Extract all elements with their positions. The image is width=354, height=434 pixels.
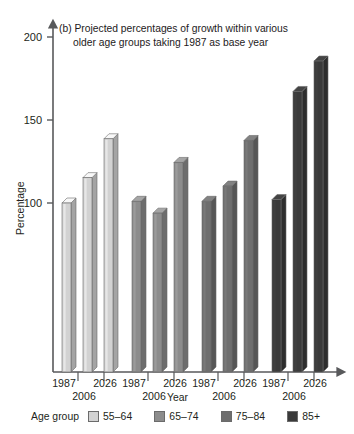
x-label-g2-1987: 1987 [183, 377, 225, 389]
bar-highlight [154, 214, 156, 371]
bar-side-face [162, 208, 167, 372]
bar-highlight [203, 202, 205, 371]
legend-item-75-84[interactable]: 75–84 [221, 411, 265, 422]
bar-highlight [315, 62, 317, 371]
legend-item-65-74[interactable]: 65–74 [154, 411, 198, 422]
bar[interactable] [244, 140, 253, 372]
bar-side-face [323, 56, 328, 372]
bar-side-face [232, 181, 237, 372]
bar-highlight [294, 92, 296, 371]
legend-swatch-icon [88, 411, 99, 422]
bar[interactable] [62, 203, 71, 372]
bar-highlight [105, 140, 107, 371]
bar[interactable] [132, 201, 141, 372]
bar-highlight [133, 202, 135, 371]
bar[interactable] [314, 61, 323, 372]
bar-side-face [141, 196, 146, 372]
x-label-g0-1987: 1987 [43, 377, 85, 389]
x-label-g2-2006: 2006 [203, 390, 245, 402]
bar-highlight [63, 204, 65, 371]
plot-area [0, 0, 354, 434]
bar-highlight [84, 179, 86, 371]
legend-swatch-icon [154, 411, 165, 422]
legend-swatch-icon [221, 411, 232, 422]
bar[interactable] [83, 178, 92, 372]
legend-label-85-plus: 85+ [302, 411, 320, 422]
legend-swatch-icon [287, 411, 298, 422]
bar[interactable] [272, 200, 281, 372]
y-tick-label-150: 150 [12, 114, 42, 126]
chart-figure: (b) Projected percentages of growth with… [0, 0, 354, 434]
bar[interactable] [153, 213, 162, 372]
bar-side-face [183, 157, 188, 372]
x-axis-label: Year [167, 392, 188, 403]
bar[interactable] [104, 139, 113, 372]
x-label-g3-2026: 2026 [294, 377, 336, 389]
bar-side-face [92, 173, 97, 372]
bar-side-face [113, 134, 118, 372]
y-axis-label: Percentage [14, 181, 26, 235]
x-label-g1-1987: 1987 [113, 377, 155, 389]
bar[interactable] [174, 162, 183, 372]
bar-highlight [224, 187, 226, 371]
x-label-g3-1987: 1987 [253, 377, 295, 389]
x-label-g3-2006: 2006 [273, 390, 315, 402]
bar[interactable] [293, 91, 302, 372]
bar[interactable] [202, 201, 211, 372]
bar-side-face [71, 198, 76, 372]
bar-side-face [253, 135, 258, 372]
bar-side-face [302, 86, 307, 372]
bar-highlight [245, 141, 247, 371]
x-label-g0-2006: 2006 [63, 390, 105, 402]
legend-label-55-64: 55–64 [103, 411, 132, 422]
legend-label-75-84: 75–84 [236, 411, 265, 422]
bar[interactable] [223, 186, 232, 372]
bar-side-face [211, 196, 216, 372]
legend: Age group 55–64 65–74 75–84 85+ [31, 411, 342, 422]
legend-item-85-plus[interactable]: 85+ [287, 411, 320, 422]
bar-highlight [175, 163, 177, 371]
y-tick-label-200: 200 [12, 31, 42, 43]
bars-collection [62, 56, 328, 372]
legend-title: Age group [31, 411, 79, 422]
bar-side-face [281, 195, 286, 372]
bar-highlight [273, 201, 275, 371]
legend-label-65-74: 65–74 [169, 411, 198, 422]
legend-item-55-64[interactable]: 55–64 [88, 411, 132, 422]
